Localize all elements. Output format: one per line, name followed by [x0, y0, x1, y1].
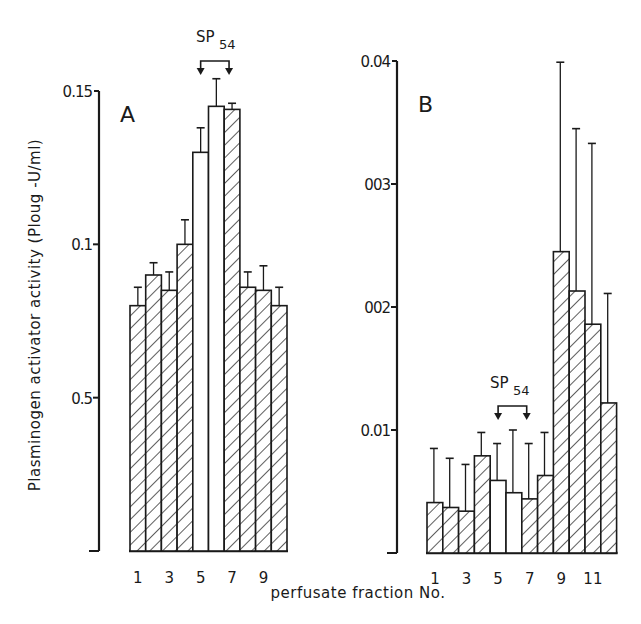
x-tick-label: 1 — [133, 569, 143, 587]
bar-fraction-10 — [271, 306, 287, 551]
panel-b-bars — [426, 62, 618, 553]
arrow-down-icon — [225, 68, 233, 75]
bar-fraction-9 — [553, 252, 569, 553]
y-tick-label: 0.04 — [361, 53, 391, 71]
panel-b-sp54-annotation: SP54 — [490, 374, 531, 420]
bar-fraction-3 — [161, 290, 177, 551]
arrow-down-icon — [494, 413, 502, 420]
panel-a-sp54-annotation: SP54 — [196, 28, 236, 75]
x-tick-label: 5 — [196, 569, 206, 587]
x-tick-label: 7 — [525, 570, 535, 588]
bar-fraction-2 — [443, 507, 459, 553]
x-tick-label: 11 — [583, 570, 602, 588]
annotation-bracket — [498, 406, 527, 416]
panel-a: A 0.50.10.15 13579 SP54 — [63, 28, 288, 587]
arrow-down-icon — [197, 68, 205, 75]
bar-fraction-8 — [240, 287, 256, 551]
panel-a-label: A — [120, 102, 135, 127]
x-tick-label: 9 — [557, 570, 567, 588]
panel-a-y-axis: 0.50.10.15 — [63, 83, 99, 551]
panel-b-y-axis: 0.010020030.04 — [361, 53, 397, 553]
x-tick-label: 5 — [493, 570, 503, 588]
bar-fraction-8 — [538, 476, 554, 553]
bar-fraction-2 — [146, 275, 162, 551]
x-tick-label: 7 — [227, 569, 237, 587]
y-axis-title: Plasminogen activator activity (Ploug -U… — [26, 139, 44, 491]
panel-b: B 0.010020030.04 1357911 SP54 — [361, 53, 618, 588]
y-tick-label: 003 — [364, 176, 390, 194]
bar-fraction-6 — [506, 493, 522, 553]
sp54-subscript: 54 — [219, 37, 236, 52]
panel-a-x-tick-labels: 13579 — [133, 569, 268, 587]
bar-fraction-6 — [209, 106, 225, 551]
x-tick-label: 1 — [430, 570, 440, 588]
bar-fraction-11 — [585, 324, 601, 553]
y-tick-label: 0.1 — [71, 236, 92, 254]
bar-fraction-1 — [130, 306, 146, 551]
y-tick-label: 0.5 — [71, 390, 92, 408]
annotation-bracket — [201, 61, 229, 71]
x-axis-title: perfusate fraction No. — [271, 584, 446, 602]
x-tick-label: 3 — [164, 569, 174, 587]
panel-b-x-tick-labels: 1357911 — [430, 570, 602, 588]
bar-chart-figure: Plasminogen activator activity (Ploug -U… — [0, 0, 641, 624]
sp54-label: SP — [196, 28, 215, 46]
bar-fraction-10 — [569, 291, 585, 553]
y-tick-label: 0.15 — [63, 83, 93, 101]
bar-fraction-5 — [490, 480, 506, 553]
arrow-down-icon — [523, 413, 531, 420]
x-tick-label: 3 — [462, 570, 472, 588]
bar-fraction-3 — [459, 511, 475, 553]
bar-fraction-9 — [256, 290, 272, 551]
bar-fraction-12 — [601, 403, 617, 553]
bar-fraction-1 — [427, 503, 443, 553]
x-tick-label: 9 — [259, 569, 269, 587]
panel-b-label: B — [418, 92, 433, 117]
y-tick-label: 0.01 — [361, 422, 391, 440]
y-tick-label: 002 — [364, 299, 390, 317]
panel-a-bars — [129, 79, 288, 551]
bar-fraction-5 — [193, 152, 209, 551]
bar-fraction-7 — [224, 109, 240, 551]
bar-fraction-4 — [177, 244, 193, 551]
bar-fraction-4 — [474, 456, 490, 553]
bar-fraction-7 — [522, 499, 538, 553]
figure: Plasminogen activator activity (Ploug -U… — [0, 0, 641, 624]
sp54-label: SP — [490, 374, 509, 392]
sp54-subscript: 54 — [513, 383, 530, 398]
